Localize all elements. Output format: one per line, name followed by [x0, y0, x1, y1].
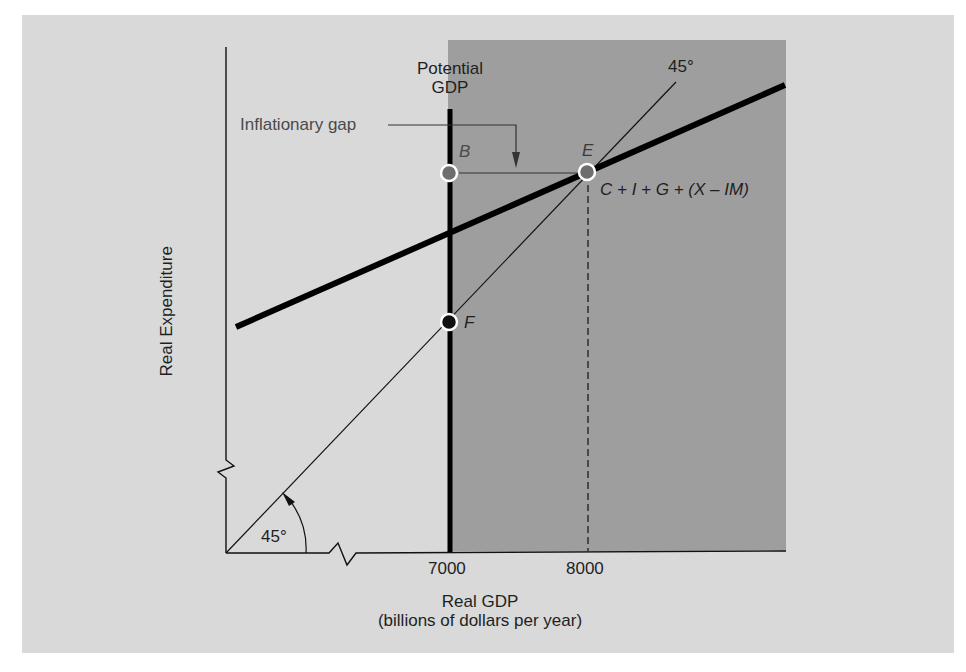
potential-gdp-label-line2: GDP: [400, 79, 500, 98]
point-e-label: E: [582, 142, 593, 161]
x-tick-7000: 7000: [428, 560, 466, 579]
point-f-label: F: [464, 314, 474, 333]
point-f: [441, 314, 457, 330]
x-axis-label: Real GDP (billions of dollars per year): [330, 593, 630, 630]
y-axis-label: Real Expenditure: [158, 246, 177, 376]
x-axis-label-main: Real GDP: [330, 593, 630, 612]
deg45-angle-label: 45°: [261, 528, 287, 547]
deg45-line-label: 45°: [668, 58, 694, 77]
aggregate-expenditure-label: C + I + G + (X – IM): [600, 181, 749, 200]
potential-gdp-label: Potential GDP: [400, 60, 500, 97]
x-axis-label-sub: (billions of dollars per year): [330, 612, 630, 631]
x-tick-8000: 8000: [566, 560, 604, 579]
point-b-label: B: [459, 143, 470, 162]
y-axis: [218, 47, 234, 553]
inflationary-region-shade: [448, 40, 786, 551]
point-e: [579, 164, 595, 180]
point-b: [441, 165, 457, 181]
chart-canvas: [0, 0, 966, 672]
inflationary-gap-label: Inflationary gap: [240, 116, 356, 135]
potential-gdp-label-line1: Potential: [400, 60, 500, 79]
